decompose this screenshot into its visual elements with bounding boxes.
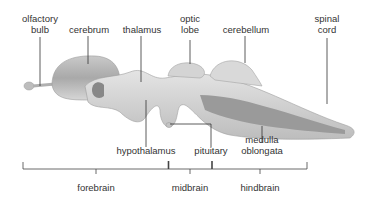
label-midbrain: midbrain — [165, 182, 215, 193]
label-forebrain: forebrain — [66, 182, 126, 193]
region-brackets — [23, 161, 307, 174]
label-medulla-oblongata: medulla oblongata — [235, 134, 289, 156]
brain-shape — [24, 56, 354, 139]
label-cerebellum: cerebellum — [217, 24, 275, 35]
label-cerebrum: cerebrum — [62, 24, 116, 35]
label-olfactory-bulb: olfactory bulb — [17, 13, 63, 35]
label-spinal-cord: spinal cord — [307, 13, 347, 35]
label-hypothalamus: hypothalamus — [111, 145, 181, 156]
label-pituitary: pituitary — [189, 145, 233, 156]
label-hindbrain: hindbrain — [232, 182, 288, 193]
label-optic-lobe: optic lobe — [170, 13, 210, 35]
label-thalamus: thalamus — [117, 24, 167, 35]
